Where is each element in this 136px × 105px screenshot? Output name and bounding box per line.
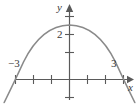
x-axis-label: x: [128, 82, 133, 93]
parabola-figure: y x 2 −3 3: [0, 0, 136, 105]
x-tick-label-positive-3: 3: [111, 58, 117, 69]
graph-canvas: [0, 0, 136, 105]
y-tick-label-2: 2: [57, 29, 63, 40]
y-axis-arrowhead: [66, 4, 73, 12]
x-tick-label-negative-3: −3: [8, 58, 20, 69]
y-axis-label: y: [57, 2, 62, 13]
